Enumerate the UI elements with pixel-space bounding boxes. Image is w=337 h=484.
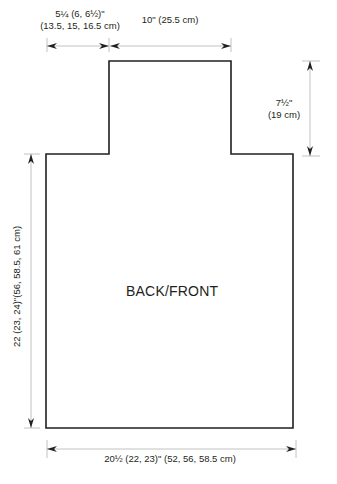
neck-depth-imperial: 7½" bbox=[262, 97, 306, 109]
shoulder-width-label: 5¼ (6, 6½)" (13.5, 15, 16.5 cm) bbox=[28, 8, 132, 32]
shoulder-width-dimension bbox=[47, 38, 109, 52]
shoulder-width-imperial: 5¼ (6, 6½)" bbox=[28, 8, 132, 20]
neck-width-dimension bbox=[110, 38, 231, 52]
body-width-label: 20½ (22, 23)" (52, 56, 58.5 cm) bbox=[60, 453, 280, 465]
body-length-dimension bbox=[24, 154, 40, 428]
neck-depth-label: 7½" (19 cm) bbox=[262, 97, 306, 121]
body-length-label: 22 (23, 24)"(56, 58.5, 61 cm) bbox=[11, 207, 22, 367]
piece-title: BACK/FRONT bbox=[126, 283, 218, 299]
schematic-drawing bbox=[0, 0, 337, 484]
shoulder-width-metric: (13.5, 15, 16.5 cm) bbox=[28, 20, 132, 32]
neck-width-label: 10" (25.5 cm) bbox=[125, 14, 215, 26]
neck-depth-metric: (19 cm) bbox=[262, 109, 306, 121]
back-front-outline bbox=[46, 61, 293, 428]
